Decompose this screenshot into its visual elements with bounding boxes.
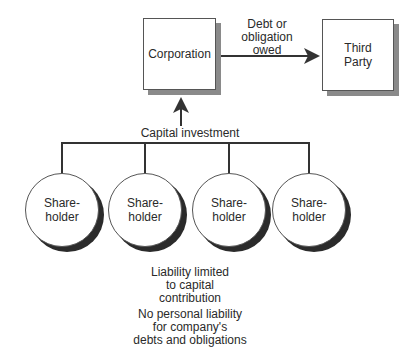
capital-investment-label: Capital investment (120, 127, 260, 140)
corporation-box: Corporation (143, 18, 216, 90)
shareholder-label: Share- (44, 196, 80, 210)
shareholder-circle-2: Share-holder (108, 173, 182, 247)
debt-label-line3: owed (232, 44, 302, 57)
liability-note-line3: contribution (120, 292, 260, 305)
third-party-line1: Third (344, 41, 372, 55)
shareholder-circle-4: Share-holder (272, 173, 346, 247)
shareholder-label: Share- (291, 196, 327, 210)
shareholder-label: holder (211, 210, 247, 224)
third-party-box: Third Party (322, 19, 394, 91)
shareholder-label: holder (291, 210, 327, 224)
shareholder-label: Share- (211, 196, 247, 210)
shareholder-label: holder (44, 210, 80, 224)
shareholder-circle-3: Share-holder (192, 173, 266, 247)
shareholder-label: Share- (127, 196, 163, 210)
shareholder-circle-1: Share-holder (25, 173, 99, 247)
personal-note-line3: debts and obligations (110, 334, 270, 347)
corporation-label: Corporation (148, 47, 211, 61)
shareholder-label: holder (127, 210, 163, 224)
shareholder-bar (62, 143, 309, 173)
third-party-line2: Party (344, 55, 372, 69)
liability-note: Liability limited to capital contributio… (120, 266, 260, 305)
debt-label: Debt or obligation owed (232, 18, 302, 57)
personal-liability-note: No personal liability for company's debt… (110, 308, 270, 347)
